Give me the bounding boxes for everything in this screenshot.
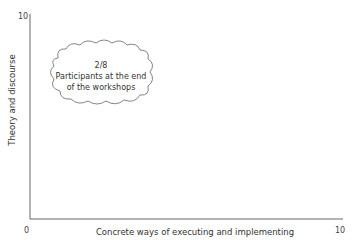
cloud-line-2: Participants at the end	[56, 72, 147, 81]
cloud-annotation: 2/8 Participants at the end of the works…	[51, 40, 153, 104]
chart-canvas: 10 0 10 Concrete ways of executing and i…	[0, 0, 355, 248]
cloud-line-3: of the workshops	[67, 83, 136, 92]
y-max-tick: 10	[18, 12, 28, 21]
cloud-line-1: 2/8	[95, 61, 108, 70]
x-origin-tick: 0	[24, 226, 29, 235]
x-max-tick: 10	[335, 226, 345, 235]
y-axis-title: Theory and discourse	[7, 54, 17, 147]
x-axis-title: Concrete ways of executing and implement…	[96, 227, 294, 237]
